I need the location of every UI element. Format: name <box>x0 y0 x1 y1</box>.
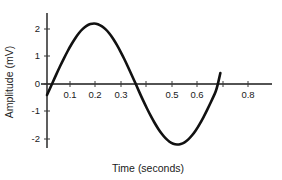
x-tick-label-2: 0.3 <box>114 89 127 100</box>
y-tick-label-4: 2 <box>35 23 40 34</box>
x-tick-label-5: 0.6 <box>190 89 203 100</box>
x-tick-label-1: 0.2 <box>88 89 101 100</box>
y-tick-label-3: 1 <box>35 50 40 61</box>
y-tick-label-1: -1 <box>32 105 40 116</box>
y-axis-title: Amplitude (mV) <box>3 46 15 118</box>
y-tick-label-0: -2 <box>32 133 40 144</box>
y-tick-label-2: 0 <box>35 78 40 89</box>
x-tick-label-0: 0.1 <box>63 89 76 100</box>
figure-background <box>0 0 282 180</box>
x-axis-title: Time (seconds) <box>112 162 184 174</box>
x-tick-label-7: 0.8 <box>241 89 254 100</box>
x-tick-label-4: 0.5 <box>165 89 178 100</box>
signal-plot-figure: 0.1 0.2 0.3 0.5 0.6 0.8 2 1 0 -1 -2 Time… <box>0 0 282 180</box>
